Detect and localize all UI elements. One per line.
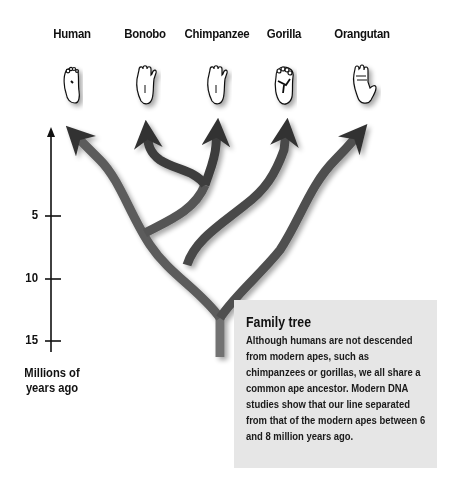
axis-tick-label-15: 15 <box>12 332 38 347</box>
axis-title-line2: years ago <box>22 380 82 395</box>
time-axis <box>45 127 61 352</box>
axis-title: Millions of years ago <box>22 365 82 395</box>
orangutan-foot-icon <box>353 65 376 103</box>
chimpanzee-foot-icon <box>208 66 227 104</box>
branch-pan-ancestor <box>145 185 205 233</box>
axis-tick-label-10: 10 <box>12 270 38 285</box>
info-box-body: Although humans are not descended from m… <box>246 332 428 444</box>
branch-orangutan <box>220 135 358 318</box>
branch-chimpanzee <box>205 132 217 185</box>
gorilla-foot-icon <box>275 67 293 104</box>
info-box: Family tree Although humans are not desc… <box>234 300 437 468</box>
info-box-title: Family tree <box>246 314 405 330</box>
bonobo-foot-icon <box>137 66 156 104</box>
axis-title-line1: Millions of <box>22 365 82 380</box>
axis-tick-label-5: 5 <box>12 207 38 222</box>
human-foot-icon <box>64 67 79 103</box>
branch-bonobo <box>147 134 205 185</box>
